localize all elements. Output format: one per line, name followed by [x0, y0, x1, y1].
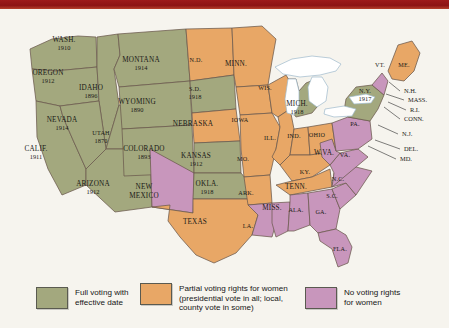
legend-label-partial: Partial voting rights for women (preside…	[179, 283, 288, 313]
leader-line-del	[375, 140, 400, 149]
state-fl[interactable]	[318, 229, 352, 267]
state-sd[interactable]	[190, 75, 236, 113]
leader-line-nh	[389, 82, 400, 91]
state-or[interactable]	[32, 67, 99, 106]
state-ia[interactable]	[236, 85, 272, 115]
legend-label-none: No voting rights for women	[344, 287, 400, 307]
callout-label-nj: N.J.	[402, 130, 413, 137]
callout-label-ri: R.I.	[410, 106, 420, 113]
state-wa[interactable]	[30, 36, 97, 71]
legend-label-full: Full voting with effective date	[75, 287, 129, 307]
state-ne[interactable]	[192, 109, 240, 143]
map-legend: Full voting with effective date Partial …	[0, 277, 449, 328]
states-layer	[30, 26, 420, 267]
callout-label-del: DEL.	[404, 145, 418, 152]
state-mn[interactable]	[232, 26, 276, 87]
legend-item-partial: Partial voting rights for women (preside…	[140, 283, 288, 313]
lake-superior-shape	[275, 56, 341, 77]
state-me[interactable]	[388, 41, 420, 81]
leader-line-nj	[378, 125, 398, 134]
legend-swatch-full	[36, 287, 68, 309]
state-al[interactable]	[288, 193, 310, 231]
lake-erie-shape	[324, 106, 356, 117]
state-tx[interactable]	[152, 199, 258, 263]
leader-line-mass	[386, 94, 404, 100]
state-ar[interactable]	[244, 175, 272, 205]
lake-huron-shape	[308, 77, 328, 107]
callout-label-conn: CONN.	[404, 115, 424, 122]
page-top-band	[0, 0, 449, 9]
leader-line-ri	[388, 102, 406, 110]
state-nd[interactable]	[186, 28, 234, 81]
state-label-vt: VT.	[375, 61, 385, 68]
state-mt[interactable]	[114, 29, 190, 87]
state-mo[interactable]	[240, 113, 280, 177]
leader-line-conn	[384, 107, 400, 119]
callout-label-nh: N.H.	[404, 87, 417, 94]
legend-swatch-partial	[140, 283, 172, 305]
state-ks[interactable]	[194, 141, 241, 173]
state-ms[interactable]	[272, 202, 290, 237]
leader-line-md	[368, 146, 396, 159]
legend-swatch-none	[305, 287, 337, 309]
state-pa[interactable]	[332, 117, 372, 151]
map-page: WASH.1910OREGON1912CALIF.1911IDAHO1896NE…	[0, 9, 449, 328]
legend-item-none: No voting rights for women	[305, 287, 400, 309]
map-svg: WASH.1910OREGON1912CALIF.1911IDAHO1896NE…	[0, 9, 449, 277]
state-wy[interactable]	[119, 81, 192, 129]
us-suffrage-map: WASH.1910OREGON1912CALIF.1911IDAHO1896NE…	[0, 9, 449, 277]
callout-label-md: MD.	[400, 155, 412, 162]
callout-label-mass: MASS.	[408, 96, 427, 103]
legend-item-full: Full voting with effective date	[36, 287, 129, 309]
lake-michigan-shape	[285, 79, 299, 115]
